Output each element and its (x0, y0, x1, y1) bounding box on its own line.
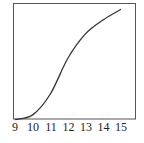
x-tick-label: 13 (80, 120, 92, 134)
x-axis-tick-labels: 9 10 11 12 13 14 15 (12, 120, 127, 134)
x-tick-label: 9 (12, 120, 18, 134)
data-curve (15, 9, 121, 119)
plot-frame (14, 4, 136, 120)
x-tick-label: 14 (98, 120, 110, 134)
x-tick-label: 11 (45, 120, 57, 134)
x-tick-label: 15 (115, 120, 127, 134)
x-tick-label: 10 (27, 120, 39, 134)
x-tick-label: 12 (63, 120, 75, 134)
sigmoid-line-chart: 9 10 11 12 13 14 15 (0, 0, 144, 143)
